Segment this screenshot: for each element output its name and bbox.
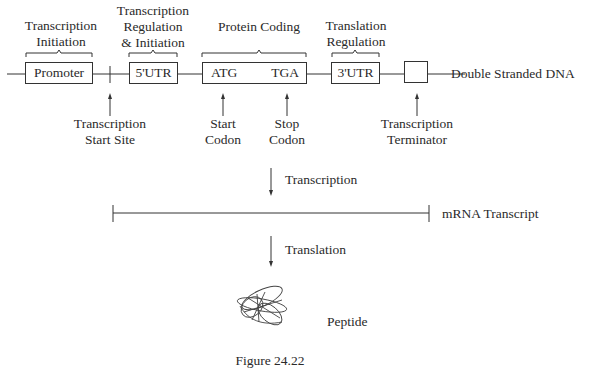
utr5-box: 5'UTR <box>129 62 178 84</box>
utr3-box: 3'UTR <box>331 62 380 84</box>
figure-caption: Figure 24.22 <box>220 353 320 369</box>
dna-label: Double Stranded DNA <box>451 66 575 82</box>
stop-codon-text: TGA <box>271 63 299 83</box>
terminator-box <box>404 61 428 83</box>
peptide-shape-icon <box>236 281 287 329</box>
translation-step-label: Translation <box>285 242 346 258</box>
start-codon-text: ATG <box>211 63 237 83</box>
protein-coding-box: ATG TGA <box>202 62 307 84</box>
transcription-step-label: Transcription <box>285 172 357 188</box>
bracket-regulation <box>129 50 177 57</box>
bracket-protein-coding <box>202 50 306 57</box>
label-translation-regulation: Translation Regulation <box>316 18 396 50</box>
label-transcription-regulation: Transcription Regulation & Initiation <box>108 3 198 51</box>
label-tss: Transcription Start Site <box>60 116 160 148</box>
mrna-label: mRNA Transcript <box>442 206 538 222</box>
label-stop-codon: Stop Codon <box>262 116 312 148</box>
promoter-box: Promoter <box>25 62 93 84</box>
label-transcription-initiation: Transcription Initiation <box>6 18 116 50</box>
label-start-codon: Start Codon <box>198 116 248 148</box>
bracket-transcription-initiation <box>26 50 92 57</box>
bracket-translation-regulation <box>332 50 379 57</box>
label-terminator: Transcription Terminator <box>367 116 467 148</box>
peptide-label: Peptide <box>327 314 368 330</box>
label-protein-coding: Protein Coding <box>204 19 314 35</box>
